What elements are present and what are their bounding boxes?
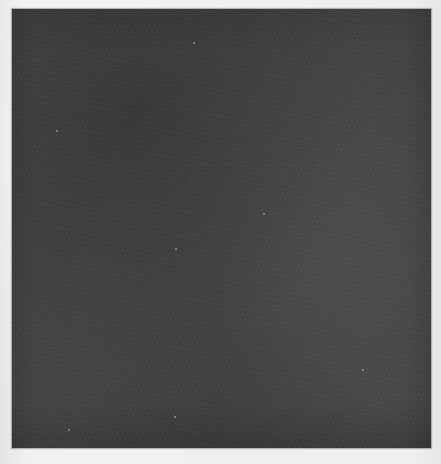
dust-speck: [68, 429, 70, 431]
dust-speck: [174, 416, 176, 418]
dark-grey-swatch: [12, 9, 431, 448]
dust-speck: [263, 213, 265, 215]
dust-speck: [175, 248, 177, 250]
swatch-grain: [12, 9, 431, 448]
dust-speck: [193, 42, 195, 44]
dust-speck: [362, 369, 364, 371]
dust-speck: [56, 130, 58, 132]
